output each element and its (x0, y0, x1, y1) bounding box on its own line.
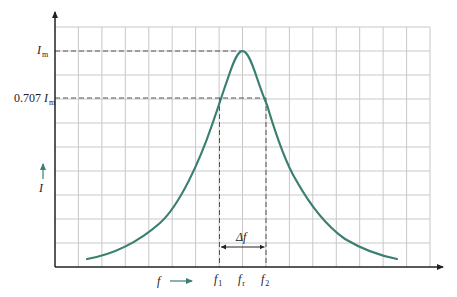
x-axis-label: f (157, 275, 160, 287)
bandwidth-label: Δf (236, 231, 246, 243)
im707-tick-label: 0.707 Im (14, 92, 55, 107)
f2-tick-label: f2 (261, 273, 269, 288)
reference-dashed-lines (55, 51, 266, 267)
y-axis-label: I (39, 182, 43, 194)
resonance-chart (0, 0, 457, 297)
f1-tick-label: f1 (214, 273, 222, 288)
fr-tick-label: fr (238, 273, 245, 288)
im-tick-label: Im (37, 44, 48, 59)
